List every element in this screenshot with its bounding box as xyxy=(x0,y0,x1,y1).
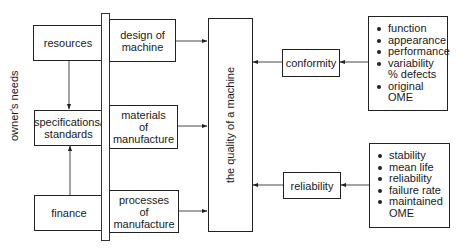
resources-label: resources xyxy=(44,37,92,49)
specifications-label-line2: standards xyxy=(44,128,92,140)
reliability-box: reliability xyxy=(283,172,341,199)
list-item: variability% defects xyxy=(377,58,443,81)
bullet-icon xyxy=(377,50,381,54)
list-item: performance xyxy=(377,46,443,58)
processes-label-line3: manufacture xyxy=(113,218,174,230)
processes-label-line2: of xyxy=(139,206,148,218)
conformity-criteria-list: function appearance performance variabil… xyxy=(368,16,448,111)
bullet-icon xyxy=(378,154,382,158)
quality-of-machine-label: the quality of a machine xyxy=(225,67,237,183)
reliability-label: reliability xyxy=(291,180,334,192)
materials-of-manufacture-box: materials of manufacture xyxy=(109,105,178,149)
materials-label-line2: of xyxy=(139,121,148,133)
design-of-machine-box: design of machine xyxy=(109,19,176,62)
quality-diagram: owner's needs resources specifications/ … xyxy=(0,0,467,249)
processes-label-line1: processes xyxy=(119,194,169,206)
bullet-icon xyxy=(377,85,381,89)
finance-box: finance xyxy=(34,195,104,231)
bullet-icon xyxy=(377,62,381,66)
list-item: maintainedOME xyxy=(378,196,445,219)
design-label-line1: design of xyxy=(120,29,165,41)
bullet-icon xyxy=(378,189,382,193)
conformity-box: conformity xyxy=(282,49,340,77)
bullet-icon xyxy=(378,200,382,204)
materials-label-line3: manufacture xyxy=(113,133,174,145)
resources-box: resources xyxy=(33,25,103,61)
finance-label: finance xyxy=(51,207,86,219)
owners-needs-label: owner's needs xyxy=(8,81,20,141)
specifications-label-line1: specifications/ xyxy=(34,116,103,128)
specifications-box: specifications/ standards xyxy=(34,110,103,146)
reliability-criteria-list: stability mean life reliability failure … xyxy=(369,143,450,228)
processes-of-manufacture-box: processes of manufacture xyxy=(109,190,179,233)
bullet-icon xyxy=(377,27,381,31)
design-label-line2: machine xyxy=(122,41,164,53)
conformity-label: conformity xyxy=(286,57,337,69)
list-item: originalOME xyxy=(377,81,443,104)
materials-label-line1: materials xyxy=(121,109,166,121)
bullet-icon xyxy=(377,39,381,43)
bullet-icon xyxy=(378,177,382,181)
quality-of-machine-box: the quality of a machine xyxy=(208,18,253,232)
bullet-icon xyxy=(378,166,382,170)
